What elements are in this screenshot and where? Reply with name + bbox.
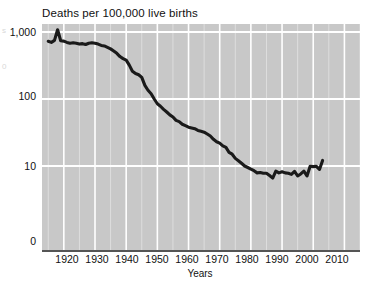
y-axis-tick-2: 10 xyxy=(2,160,36,172)
plot-area xyxy=(42,24,360,250)
x-axis-tick-9: 2010 xyxy=(317,253,357,265)
vertical-gridlines xyxy=(48,24,360,250)
x-axis-title: Years xyxy=(140,268,260,279)
y-axis-tick-1: 100 xyxy=(2,90,36,102)
horizontal-gridlines xyxy=(42,32,360,166)
y-axis-tick-3: 0 xyxy=(2,235,36,247)
y-axis-tick-0: 1,000 xyxy=(2,26,36,38)
chart-title: Deaths per 100,000 live births xyxy=(42,7,198,19)
plot-svg xyxy=(42,24,360,250)
chart-figure: Deaths per 100,000 live births s 0 1,000… xyxy=(0,0,370,284)
margin-ghost-text-bottom: 0 xyxy=(2,62,6,71)
x-axis-line xyxy=(42,250,360,252)
